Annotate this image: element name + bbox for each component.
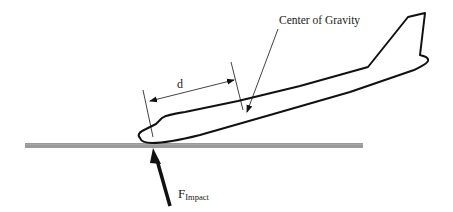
center-of-gravity-label: Center of Gravity: [279, 14, 360, 26]
dimension-d: [143, 62, 243, 137]
impact-force-arrow: [150, 148, 170, 206]
diagram-svg: [0, 0, 453, 212]
cg-leader-arrow: [247, 29, 278, 112]
diagram-canvas: Center of Gravity d FImpact: [0, 0, 453, 212]
ground-bar: [25, 143, 363, 148]
dimension-arrow: [150, 80, 234, 101]
distance-d-label: d: [177, 77, 183, 92]
impact-force-label: FImpact: [178, 186, 209, 202]
force-subscript: Impact: [185, 192, 209, 202]
